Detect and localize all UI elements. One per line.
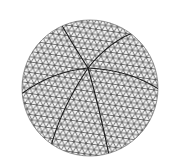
sphere-mesh <box>0 0 181 167</box>
geodesic-sphere-diagram <box>0 0 181 167</box>
